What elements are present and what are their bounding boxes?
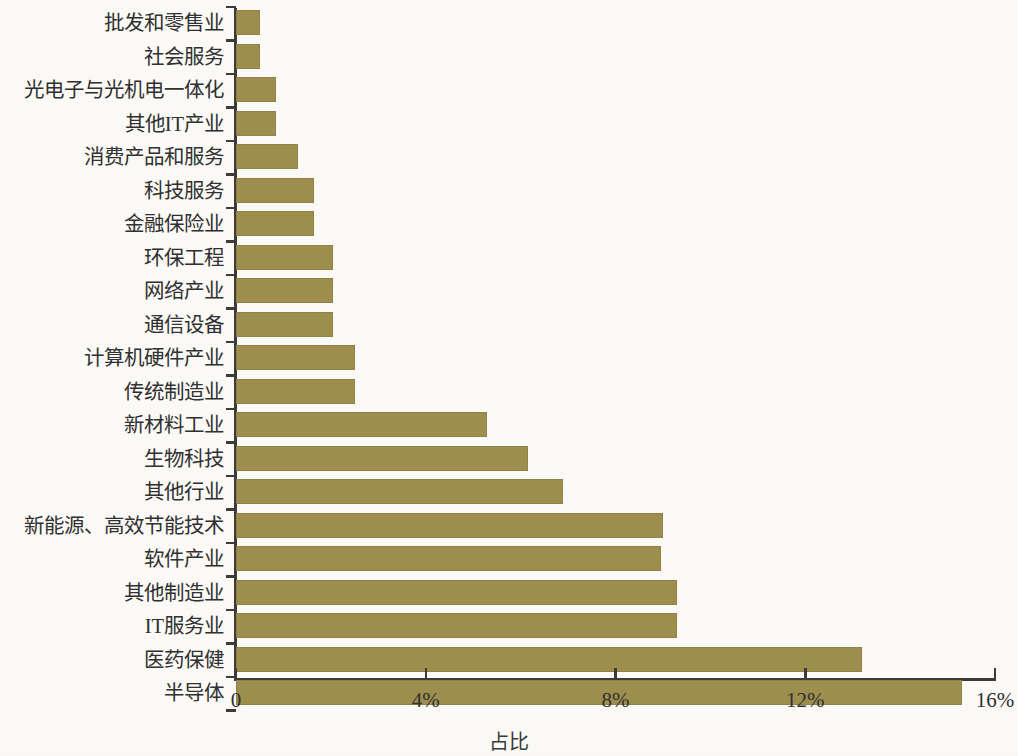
y-axis-tick xyxy=(226,609,236,612)
y-axis-label: 新材料工业 xyxy=(0,413,224,438)
y-axis-tick xyxy=(226,6,236,9)
bar xyxy=(236,77,276,102)
y-axis-label: 生物科技 xyxy=(0,447,224,472)
y-axis-tick xyxy=(226,575,236,578)
horizontal-bar-chart: 批发和零售业社会服务光电子与光机电一体化其他IT产业消费产品和服务科技服务金融保… xyxy=(0,0,1018,756)
bar xyxy=(236,412,487,437)
y-axis-tick xyxy=(226,508,236,511)
bar xyxy=(236,44,260,69)
bar xyxy=(236,111,276,136)
y-axis-tick xyxy=(226,475,236,478)
y-axis-tick xyxy=(226,173,236,176)
bar xyxy=(236,647,862,672)
bar xyxy=(236,680,962,705)
bar xyxy=(236,312,333,337)
y-axis-tick xyxy=(226,106,236,109)
y-axis-label: 传统制造业 xyxy=(0,380,224,405)
bar xyxy=(236,345,355,370)
y-axis-tick xyxy=(226,642,236,645)
y-axis-label: 社会服务 xyxy=(0,45,224,70)
y-axis-label: 其他制造业 xyxy=(0,581,224,606)
bar xyxy=(236,178,314,203)
y-axis-label: 新能源、高效节能技术 xyxy=(0,514,224,539)
x-axis-tick xyxy=(235,668,238,680)
y-axis-tick xyxy=(226,341,236,344)
x-axis-tick-label: 0 xyxy=(231,688,242,713)
x-axis-tick xyxy=(614,668,617,680)
y-axis-label: 通信设备 xyxy=(0,313,224,338)
x-axis-tick-label: 12% xyxy=(786,688,825,713)
x-axis-title: 占比 xyxy=(0,726,1018,755)
y-axis-tick xyxy=(226,374,236,377)
x-axis-tick-label: 16% xyxy=(976,688,1015,713)
y-axis-tick xyxy=(226,441,236,444)
bar xyxy=(236,546,661,571)
bar xyxy=(236,446,528,471)
y-axis-tick xyxy=(226,140,236,143)
x-axis-tick xyxy=(994,668,997,680)
bar xyxy=(236,144,298,169)
y-axis-label: 批发和零售业 xyxy=(0,11,224,36)
bar xyxy=(236,245,333,270)
y-axis-tick xyxy=(226,240,236,243)
x-axis-tick-label: 8% xyxy=(602,688,630,713)
y-axis-label: 其他IT产业 xyxy=(0,112,224,137)
x-axis-tick xyxy=(804,668,807,680)
y-axis-label: 其他行业 xyxy=(0,480,224,505)
x-axis-tick-label: 4% xyxy=(412,688,440,713)
y-axis-tick xyxy=(226,408,236,411)
bar xyxy=(236,613,677,638)
y-axis-label: 环保工程 xyxy=(0,246,224,271)
y-axis-tick xyxy=(226,207,236,210)
y-axis-label: 计算机硬件产业 xyxy=(0,346,224,371)
bar xyxy=(236,278,333,303)
bar xyxy=(236,580,677,605)
y-axis-tick xyxy=(226,307,236,310)
y-axis-label: 半导体 xyxy=(0,681,224,706)
y-axis-label: 网络产业 xyxy=(0,279,224,304)
bar xyxy=(236,10,260,35)
bar xyxy=(236,479,563,504)
y-axis-label: 软件产业 xyxy=(0,547,224,572)
y-axis-label: 消费产品和服务 xyxy=(0,145,224,170)
bar xyxy=(236,211,314,236)
bar xyxy=(236,513,663,538)
y-axis-label: 医药保健 xyxy=(0,648,224,673)
y-axis-label: 科技服务 xyxy=(0,179,224,204)
y-axis-label: 光电子与光机电一体化 xyxy=(0,78,224,103)
x-axis-tick xyxy=(425,668,428,680)
y-axis-tick xyxy=(226,542,236,545)
y-axis-label: 金融保险业 xyxy=(0,212,224,237)
y-axis-tick xyxy=(226,39,236,42)
y-axis-label: IT服务业 xyxy=(0,614,224,639)
y-axis-tick xyxy=(226,274,236,277)
bar xyxy=(236,379,355,404)
y-axis-tick xyxy=(226,73,236,76)
